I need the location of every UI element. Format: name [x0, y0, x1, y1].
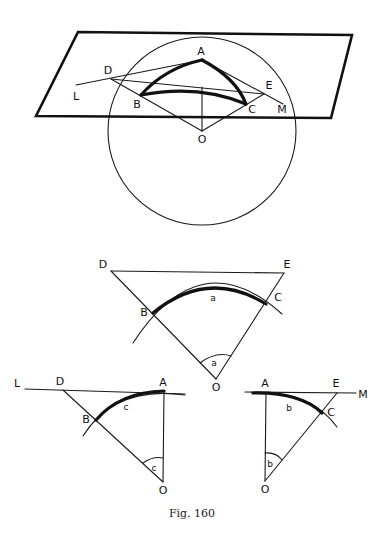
label-E: E — [266, 79, 273, 92]
figure-side-c: L D A B O c c — [14, 375, 185, 497]
label-D: D — [99, 258, 107, 271]
label-M: M — [358, 388, 368, 401]
arc-AB — [96, 391, 164, 420]
label-C: C — [327, 406, 335, 419]
label-D: D — [56, 375, 64, 388]
label-B: B — [82, 413, 90, 426]
label-arc-c: c — [124, 402, 129, 412]
label-E: E — [333, 377, 340, 390]
figure-side-a: D E B C O a a — [99, 258, 291, 394]
tangent-plane — [36, 32, 352, 118]
label-C: C — [248, 103, 256, 116]
label-D: D — [104, 64, 112, 77]
line-DE — [111, 271, 284, 273]
label-arc-b: b — [286, 403, 292, 413]
label-C: C — [274, 291, 282, 304]
label-B: B — [140, 306, 148, 319]
label-A: A — [159, 376, 167, 389]
label-L: L — [73, 90, 80, 103]
label-O: O — [212, 381, 221, 394]
line-AO — [265, 393, 266, 481]
label-M: M — [277, 103, 287, 116]
label-L: L — [14, 377, 21, 390]
label-angle-c: c — [152, 463, 157, 473]
arc-extension — [83, 393, 185, 436]
label-A: A — [261, 377, 269, 390]
label-angle-b: b — [267, 459, 273, 469]
arc-BC — [141, 91, 246, 104]
label-O: O — [261, 483, 270, 496]
figure-side-b: A E M C O b b — [245, 377, 368, 496]
figure-caption: Fig. 160 — [169, 507, 215, 520]
figure-3d-sphere: A B C D E L M O — [36, 32, 352, 225]
label-O: O — [198, 133, 207, 146]
label-A: A — [197, 45, 205, 58]
label-arc-a: a — [210, 293, 216, 303]
label-E: E — [284, 258, 291, 271]
label-B: B — [133, 98, 141, 111]
spherical-triangle-diagram: A B C D E L M O D E B C O a a L D A — [0, 0, 391, 535]
line-AO — [163, 391, 164, 482]
label-O: O — [159, 484, 168, 497]
label-angle-a: a — [211, 358, 217, 368]
